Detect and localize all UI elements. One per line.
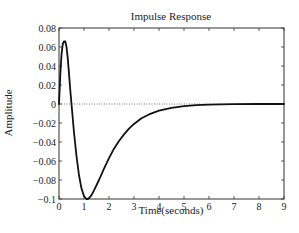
y-tick-label: −0.08 [33,175,56,186]
y-tick-label: 0.08 [39,23,57,34]
axis-ticks [59,28,284,199]
response-curve [59,41,284,199]
y-tick-label: −0.1 [38,194,56,205]
y-tick-labels: −0.1−0.08−0.06−0.04−0.0200.020.040.060.0… [33,23,56,205]
chart-title: Impulse Response [131,10,211,22]
x-tick-label: 9 [282,201,287,212]
x-tick-label: 3 [132,201,137,212]
series-line [59,41,284,199]
x-tick-label: 8 [257,201,262,212]
chart-canvas: Impulse Response 0123456789 −0.1−0.08−0.… [0,0,299,233]
y-tick-label: −0.04 [33,137,56,148]
plot-area [59,28,284,199]
y-tick-label: 0.06 [39,42,57,53]
y-tick-label: 0 [51,99,56,110]
y-tick-label: −0.06 [33,156,56,167]
y-tick-label: 0.04 [39,61,57,72]
impulse-response-chart: Impulse Response 0123456789 −0.1−0.08−0.… [0,0,299,233]
x-tick-label: 0 [57,201,62,212]
x-tick-label: 6 [207,201,212,212]
y-tick-label: 0.02 [39,80,57,91]
axes-frame [59,28,284,199]
x-tick-label: 7 [232,201,237,212]
y-axis-label: Amplitude [2,89,14,136]
x-tick-label: 2 [107,201,112,212]
x-axis-label: Time(seconds) [139,204,204,217]
y-tick-label: −0.02 [33,118,56,129]
x-tick-label: 1 [82,201,87,212]
